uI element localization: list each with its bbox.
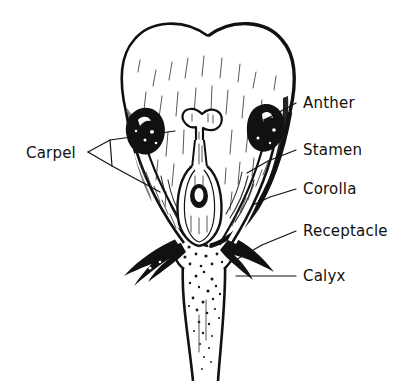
label-anther: Anther <box>303 94 355 112</box>
flower-diagram: Anther Stamen Corolla Receptacle Calyx C… <box>0 0 417 381</box>
label-calyx: Calyx <box>303 267 346 285</box>
anther-left <box>126 108 165 155</box>
label-carpel: Carpel <box>26 144 76 162</box>
label-stamen: Stamen <box>303 141 362 159</box>
label-corolla: Corolla <box>303 180 357 198</box>
label-receptacle: Receptacle <box>303 222 388 240</box>
